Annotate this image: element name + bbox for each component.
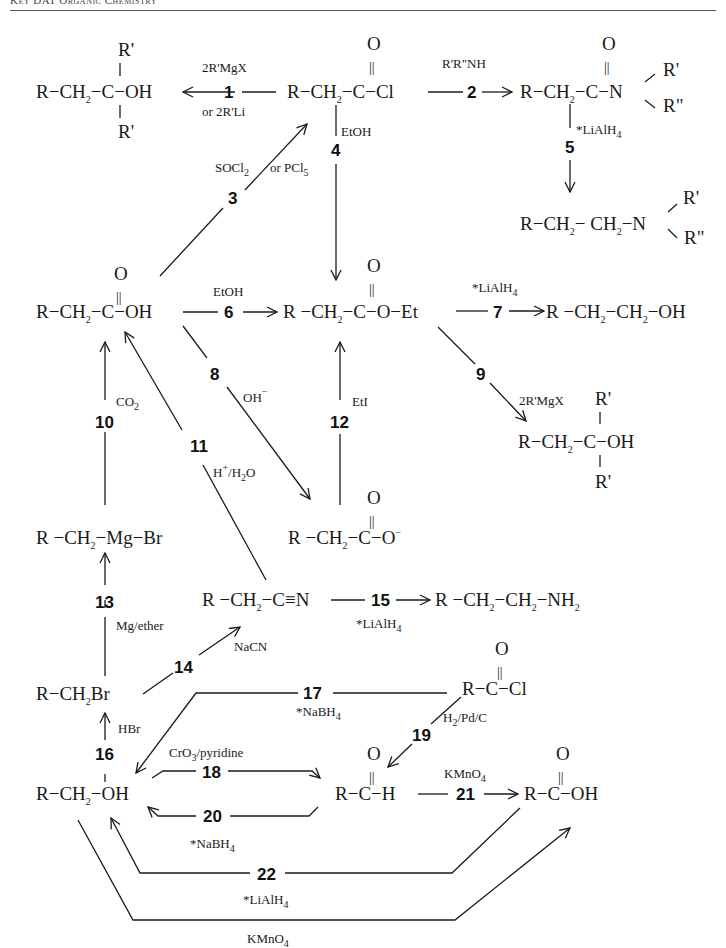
svg-text:R": R" <box>684 227 704 248</box>
svg-text:10: 10 <box>95 413 114 432</box>
reaction-10: 10 CO2 <box>95 342 139 505</box>
svg-text:H+/H2O: H+/H2O <box>213 462 255 483</box>
svg-text:KMnO4: KMnO4 <box>444 766 486 784</box>
svg-text:*LiAlH4: *LiAlH4 <box>472 280 517 298</box>
compound-primary-alcohol: R−CH2−OH <box>36 783 129 807</box>
svg-text:*NaBH4: *NaBH4 <box>190 836 235 854</box>
svg-text:R': R' <box>118 39 134 60</box>
reaction-13: 13 Mg/ether <box>95 553 164 676</box>
compound-acyl-chloride: O || R−C−Cl <box>462 638 527 699</box>
svg-text:CO2: CO2 <box>116 394 139 412</box>
svg-text:R": R" <box>663 95 683 116</box>
svg-text:O: O <box>367 33 381 54</box>
reaction-21: KMnO4 21 <box>418 766 518 804</box>
svg-text:18: 18 <box>202 763 221 782</box>
svg-text:*LiAlH4: *LiAlH4 <box>356 616 401 634</box>
svg-text:R−C−Cl: R−C−Cl <box>462 678 527 699</box>
svg-text:OH−: OH− <box>243 386 268 405</box>
reaction-14: 14 NaCN <box>143 627 268 694</box>
compound-tertiary-alcohol-top: R' R−CH2−C−OH R' <box>36 39 153 142</box>
svg-text:22: 22 <box>257 865 276 884</box>
svg-text:2R'MgX: 2R'MgX <box>519 393 565 408</box>
svg-text:R −CH2−C≡N: R −CH2−C≡N <box>202 589 310 613</box>
svg-text:R−CH2−C−Cl: R−CH2−C−Cl <box>287 81 394 105</box>
svg-text:R −CH2−CH2−NH2: R −CH2−CH2−NH2 <box>435 589 580 613</box>
svg-text:R': R' <box>118 121 134 142</box>
reaction-12: 12 EtI <box>330 342 368 505</box>
svg-text:R −CH2−Mg−Br: R −CH2−Mg−Br <box>36 527 163 551</box>
svg-text:5: 5 <box>565 138 574 157</box>
svg-text:17: 17 <box>303 684 322 703</box>
reaction-15: 15 *LiAlH4 <box>331 591 430 634</box>
svg-text:O: O <box>367 743 381 764</box>
reaction-22: 22 *LiAlH4 <box>111 808 520 910</box>
compound-nitrile: R −CH2−C≡N <box>202 589 310 613</box>
reaction-4: EtOH 4 <box>331 105 371 280</box>
svg-text:16: 16 <box>95 745 114 764</box>
reaction-2: R'R"NH 2 <box>428 56 512 102</box>
svg-text:*NaBH4: *NaBH4 <box>296 704 341 722</box>
svg-text:Mg/ether: Mg/ether <box>116 618 164 633</box>
svg-text:O: O <box>367 255 381 276</box>
compound-acid-simple: O || R−C−OH <box>524 743 598 804</box>
svg-text:R−CH2−C−OH: R−CH2−C−OH <box>36 81 153 105</box>
reaction-5: *LiAlH4 5 <box>565 104 621 192</box>
svg-text:||: || <box>369 60 375 75</box>
svg-text:R−CH2− CH2−N: R−CH2− CH2−N <box>520 213 646 237</box>
svg-text:9: 9 <box>476 365 485 384</box>
reaction-3: 3 SOCl2 or PCl5 <box>160 124 309 276</box>
svg-text:or 2R'Li: or 2R'Li <box>202 104 246 119</box>
compound-grignard-reagent: R −CH2−Mg−Br <box>36 527 163 551</box>
svg-text:11: 11 <box>190 437 208 456</box>
svg-text:KMnO4: KMnO4 <box>247 931 289 948</box>
compound-aldehyde: O || R−C−H <box>335 743 396 804</box>
svg-text:19: 19 <box>412 726 431 745</box>
reaction-16: 16 HBr <box>95 713 141 782</box>
svg-text:*LiAlH4: *LiAlH4 <box>243 892 288 910</box>
svg-text:1: 1 <box>224 83 233 102</box>
svg-text:O: O <box>556 743 570 764</box>
svg-text:NaCN: NaCN <box>234 639 268 654</box>
compound-primary-amine: R −CH2−CH2−NH2 <box>435 589 580 613</box>
svg-text:O: O <box>114 263 128 284</box>
compound-tertiary-amine: R−CH2− CH2−N R' R" <box>520 187 704 248</box>
svg-text:EtOH: EtOH <box>213 284 243 299</box>
reaction-diagram: R' R−CH2−C−OH R' 2R'MgX 1 or 2R'Li O || … <box>0 0 726 948</box>
reaction-19: H2/Pd/C 19 <box>388 697 487 767</box>
svg-text:R': R' <box>595 388 611 409</box>
compound-primary-alcohol-right: R −CH2−CH2−OH <box>546 301 686 325</box>
compound-amide: O || R−CH2−C−N R' R" <box>520 33 683 116</box>
svg-text:||: || <box>369 282 375 297</box>
reaction-6: EtOH 6 <box>183 284 277 322</box>
reaction-kmno4-oxidation: KMnO4 <box>78 820 570 948</box>
svg-text:6: 6 <box>224 303 233 322</box>
svg-text:R−CH2−C−OH: R−CH2−C−OH <box>36 301 153 325</box>
svg-text:14: 14 <box>174 658 193 677</box>
compound-carboxylic-acid: O || R−CH2−C−OH <box>36 263 153 325</box>
compound-ester: O || R −CH2−C−O−Et <box>283 255 419 325</box>
svg-text:R−C−OH: R−C−OH <box>524 783 598 804</box>
svg-text:R': R' <box>595 471 611 492</box>
svg-text:R−CH2−C−OH: R−CH2−C−OH <box>518 431 635 455</box>
svg-text:R−C−H: R−C−H <box>335 783 396 804</box>
svg-text:R−CH2Br: R−CH2Br <box>36 683 110 707</box>
compound-acid-chloride: O || R−CH2−C−Cl <box>287 33 394 105</box>
svg-text:R −CH2−CH2−OH: R −CH2−CH2−OH <box>546 301 686 325</box>
svg-text:R': R' <box>663 59 679 80</box>
reaction-7: *LiAlH4 7 <box>456 280 544 322</box>
svg-text:HBr: HBr <box>118 721 141 736</box>
svg-text:R−CH2−C−N: R−CH2−C−N <box>520 81 623 105</box>
reaction-1: 2R'MgX 1 or 2R'Li <box>183 60 276 119</box>
svg-text:or PCl5: or PCl5 <box>270 160 309 178</box>
svg-text:7: 7 <box>493 303 502 322</box>
svg-text:2: 2 <box>467 83 476 102</box>
reaction-18: CrO3/pyridine 18 <box>152 745 320 782</box>
svg-text:*LiAlH4: *LiAlH4 <box>576 122 621 140</box>
svg-text:O: O <box>495 638 509 659</box>
svg-text:R': R' <box>683 187 699 208</box>
svg-text:CrO3/pyridine: CrO3/pyridine <box>169 745 244 763</box>
svg-text:21: 21 <box>456 785 475 804</box>
svg-text:R−CH2−OH: R−CH2−OH <box>36 783 129 807</box>
svg-text:12: 12 <box>330 413 349 432</box>
svg-text:13: 13 <box>95 593 114 612</box>
